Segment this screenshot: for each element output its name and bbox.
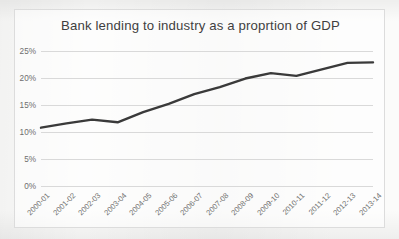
x-axis-tick-label: 2005-06 [153, 191, 179, 217]
x-axis-tick-label: 2011-12 [307, 191, 333, 217]
y-axis-tick-label: 5% [24, 155, 36, 164]
chart-title: Bank lending to industry as a proprtion … [15, 18, 386, 33]
x-axis-tick-label: 2009-10 [255, 191, 281, 217]
x-axis-tick-label: 2007-08 [204, 191, 230, 217]
y-axis-tick-label: 15% [20, 101, 36, 110]
x-axis-tick-label: 2004-05 [127, 191, 153, 217]
x-axis-tick-label: 2002-03 [76, 191, 102, 217]
x-axis-tick-labels: 2000-012001-022002-032003-042004-052005-… [41, 186, 373, 236]
data-series-line [41, 51, 373, 186]
x-axis-tick-label: 2010-11 [281, 191, 307, 217]
x-axis-tick-label: 2003-04 [102, 191, 128, 217]
x-axis-tick-label: 2013-14 [357, 191, 383, 217]
x-axis-tick-label: 2006-07 [179, 191, 205, 217]
x-axis-tick-label: 2000-01 [25, 191, 51, 217]
y-axis-tick-label: 10% [20, 128, 36, 137]
x-axis-tick-label: 2012-13 [332, 191, 358, 217]
x-axis-tick-label: 2001-02 [51, 191, 77, 217]
y-axis-tick-label: 20% [20, 74, 36, 83]
chart-container: Bank lending to industry as a proprtion … [14, 9, 385, 228]
y-axis-tick-label: 0% [24, 182, 36, 191]
x-axis-tick-label: 2008-09 [230, 191, 256, 217]
plot-area: 0%5%10%15%20%25% 2000-012001-022002-0320… [41, 51, 373, 186]
y-axis-tick-label: 25% [20, 47, 36, 56]
